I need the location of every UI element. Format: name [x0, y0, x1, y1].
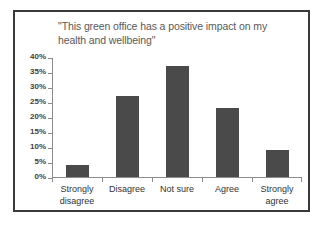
y-tick-label: 15% — [30, 127, 46, 136]
chart-title: "This green office has a positive impact… — [58, 19, 303, 47]
y-tick-label: 20% — [30, 112, 46, 121]
x-tick-mark — [252, 178, 253, 182]
x-tick-mark — [102, 178, 103, 182]
x-axis-category-label: Strongly agree — [252, 184, 302, 207]
chart-frame: "This green office has a positive impact… — [13, 10, 310, 212]
x-axis-category-label: Agree — [202, 184, 252, 196]
plot-area: 40%35%30%25%20%15%10%5%0% Strongly disag… — [52, 58, 302, 178]
x-tick-mark — [52, 178, 53, 182]
x-axis-category-label: Disagree — [102, 184, 152, 196]
y-tick-label: 25% — [30, 97, 46, 106]
x-tick-mark — [152, 178, 153, 182]
x-axis-labels: Strongly disagreeDisagreeNot sureAgreeSt… — [52, 58, 302, 178]
y-tick-label: 0% — [34, 172, 46, 181]
y-tick-label: 30% — [30, 82, 46, 91]
x-axis-category-label: Not sure — [152, 184, 202, 196]
x-tick-mark — [202, 178, 203, 182]
x-tick-mark — [301, 178, 302, 182]
y-tick-label: 40% — [30, 52, 46, 61]
y-tick-label: 10% — [30, 142, 46, 151]
y-tick-label: 35% — [30, 67, 46, 76]
y-tick-label: 5% — [34, 157, 46, 166]
x-axis-category-label: Strongly disagree — [52, 184, 102, 207]
